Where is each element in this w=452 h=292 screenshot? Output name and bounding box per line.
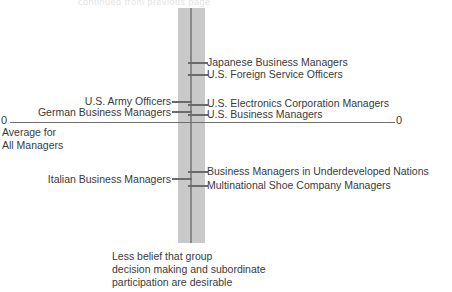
data-point-tick [188, 104, 208, 106]
data-point-tick [188, 171, 208, 173]
zero-label-left: 0 [1, 114, 7, 126]
data-point-label: U.S. Business Managers [207, 108, 323, 120]
data-point-label: Business Managers in Underdeveloped Nati… [207, 165, 429, 177]
data-point-tick [172, 111, 192, 113]
data-point-label: German Business Managers [38, 106, 171, 118]
zero-axis-line [10, 122, 395, 123]
center-vertical-rule [190, 8, 192, 243]
data-point-tick [188, 114, 208, 116]
data-point-label: Italian Business Managers [48, 173, 171, 185]
data-point-tick [172, 178, 192, 180]
figure-canvas: continued from previous page 0 0 Average… [0, 0, 452, 292]
average-for-all-managers-note: Average for All Managers [2, 126, 63, 151]
data-point-tick [172, 101, 192, 103]
data-point-tick [188, 62, 208, 64]
data-point-tick [188, 185, 208, 187]
data-point-label: U.S. Foreign Service Officers [207, 68, 343, 80]
data-point-label: Japanese Business Managers [207, 56, 348, 68]
top-cropped-text-fragment: continued from previous page [78, 0, 211, 7]
bottom-caption: Less belief that group decision making a… [112, 250, 266, 289]
zero-label-right: 0 [396, 114, 402, 126]
data-point-tick [188, 74, 208, 76]
data-point-label: Multinational Shoe Company Managers [207, 179, 391, 191]
